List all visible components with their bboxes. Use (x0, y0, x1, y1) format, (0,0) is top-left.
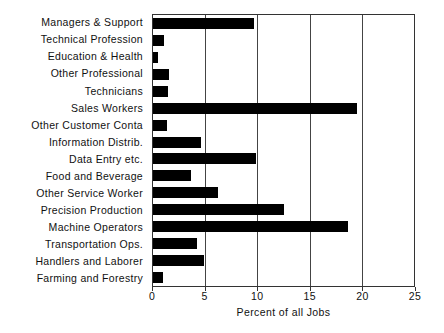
bars-layer (153, 15, 414, 286)
bar (153, 120, 167, 131)
category-label: Machine Operators (0, 219, 148, 236)
bar-row (153, 66, 414, 83)
bar (153, 272, 163, 283)
bar-row (153, 134, 414, 151)
bar (153, 204, 284, 215)
bar (153, 35, 164, 46)
category-label: Data Entry etc. (0, 151, 148, 168)
category-label: Other Professional (0, 65, 148, 82)
x-tick-label: 20 (356, 290, 368, 302)
bar-row (153, 201, 414, 218)
bar-row (153, 269, 414, 286)
bar (153, 238, 197, 249)
category-label: Other Customer Conta (0, 116, 148, 133)
bar-row (153, 218, 414, 235)
category-label: Sales Workers (0, 99, 148, 116)
bar-row (153, 15, 414, 32)
plot-area (152, 14, 415, 287)
category-label: Handlers and Laborer (0, 253, 148, 270)
x-tick-label: 25 (409, 290, 421, 302)
bar-row (153, 100, 414, 117)
bar-row (153, 235, 414, 252)
category-label: Information Distrib. (0, 133, 148, 150)
category-label: Other Service Worker (0, 185, 148, 202)
category-label: Precision Production (0, 202, 148, 219)
category-label: Food and Beverage (0, 168, 148, 185)
x-axis-ticks: 0510152025 (152, 288, 415, 302)
bar (153, 52, 158, 63)
x-tick-label: 15 (304, 290, 316, 302)
bar (153, 69, 169, 80)
bar (153, 137, 201, 148)
category-label: Technical Profession (0, 31, 148, 48)
category-label: Managers & Support (0, 14, 148, 31)
bar-chart: Managers & Support Technical Profession … (0, 0, 444, 333)
bar-row (153, 184, 414, 201)
bar (153, 153, 256, 164)
category-label: Transportation Ops. (0, 236, 148, 253)
category-label: Farming and Forestry (0, 270, 148, 287)
x-tick-label: 5 (201, 290, 207, 302)
bar-row (153, 117, 414, 134)
bar-row (153, 83, 414, 100)
bar (153, 221, 348, 232)
bar-row (153, 252, 414, 269)
bar-row (153, 151, 414, 168)
category-label: Technicians (0, 82, 148, 99)
bar (153, 170, 191, 181)
bar (153, 187, 218, 198)
bar (153, 255, 204, 266)
bar-row (153, 32, 414, 49)
bar (153, 103, 357, 114)
bar (153, 86, 168, 97)
bar-row (153, 167, 414, 184)
x-tick-label: 10 (251, 290, 263, 302)
bar-row (153, 49, 414, 66)
x-axis-title: Percent of all Jobs (152, 306, 415, 318)
bar (153, 18, 254, 29)
x-tick-label: 0 (149, 290, 155, 302)
category-axis-labels: Managers & Support Technical Profession … (0, 14, 148, 287)
category-label: Education & Health (0, 48, 148, 65)
